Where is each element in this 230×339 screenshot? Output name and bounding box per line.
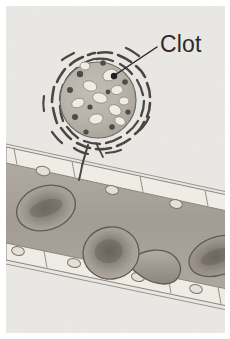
clot-illustration xyxy=(0,0,230,339)
figure-root: Clot xyxy=(0,0,230,339)
paper-texture xyxy=(6,6,225,333)
